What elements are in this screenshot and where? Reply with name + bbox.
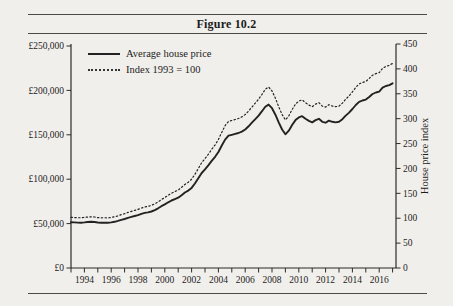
- chart-legend: Average house price Index 1993 = 100: [88, 47, 212, 76]
- x-tick-label: 2004: [209, 275, 228, 285]
- solid-line-swatch: [88, 53, 120, 55]
- x-tick-label: 2014: [343, 275, 362, 285]
- left-tick-label: £50,000: [33, 219, 64, 229]
- figure-page: Figure 10.2 £0£50,000£100,000£150,000£20…: [0, 0, 453, 306]
- x-tick-label: 2012: [316, 275, 335, 285]
- house-price-index-line: [71, 63, 393, 218]
- legend-label-average-house-price: Average house price: [126, 48, 212, 59]
- bottom-rule: [28, 293, 427, 294]
- left-tick-label: £100,000: [28, 174, 64, 184]
- right-tick-label: 0: [403, 263, 408, 273]
- right-tick-label: 150: [403, 189, 418, 199]
- right-tick-label: 100: [403, 213, 418, 223]
- left-tick-label: £150,000: [28, 130, 64, 140]
- x-tick-label: 2008: [263, 275, 282, 285]
- x-tick-label: 1998: [129, 275, 148, 285]
- right-tick-label: 50: [403, 238, 413, 248]
- right-axis-title: House price index: [419, 118, 430, 194]
- dotted-line-swatch: [88, 69, 120, 71]
- left-tick-label: £0: [55, 263, 65, 273]
- x-tick-label: 2002: [182, 275, 201, 285]
- right-tick-label: 450: [403, 39, 418, 49]
- x-tick-label: 1994: [75, 275, 94, 285]
- legend-item-average-house-price: Average house price: [88, 47, 212, 60]
- chart-canvas: £0£50,000£100,000£150,000£200,000£250,00…: [0, 0, 453, 306]
- left-tick-label: £200,000: [28, 86, 64, 96]
- x-tick-label: 2000: [155, 275, 174, 285]
- right-tick-label: 300: [403, 114, 418, 124]
- legend-item-index: Index 1993 = 100: [88, 63, 212, 76]
- x-tick-label: 2016: [370, 275, 389, 285]
- legend-label-index: Index 1993 = 100: [126, 64, 200, 75]
- right-tick-label: 400: [403, 64, 418, 74]
- x-tick-label: 2010: [289, 275, 308, 285]
- right-tick-label: 350: [403, 89, 418, 99]
- x-tick-label: 2006: [236, 275, 255, 285]
- average-house-price-line: [71, 83, 393, 223]
- x-tick-label: 1996: [102, 275, 121, 285]
- right-tick-label: 200: [403, 164, 418, 174]
- house-price-chart: £0£50,000£100,000£150,000£200,000£250,00…: [0, 0, 453, 306]
- left-tick-label: £250,000: [28, 41, 64, 51]
- right-tick-label: 250: [403, 139, 418, 149]
